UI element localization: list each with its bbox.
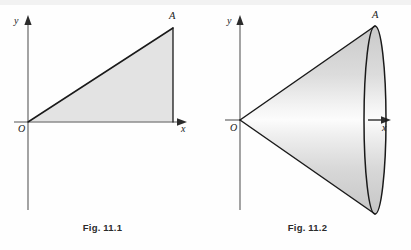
figure-page: y x O A Fig. 11.1 <box>0 0 411 250</box>
figure-11-2: y x O A Fig. 11.2 <box>205 0 410 250</box>
point-a-label: A <box>169 10 175 21</box>
origin-label: O <box>18 123 25 134</box>
point-a-label: A <box>372 9 378 20</box>
y-axis-arrow-icon <box>24 15 31 25</box>
x-axis-label: x <box>382 122 386 133</box>
y-axis-arrow-icon <box>236 15 243 25</box>
figure-11-1-caption: Fig. 11.1 <box>0 222 205 233</box>
x-axis-label: x <box>181 123 185 134</box>
figure-11-1: y x O A Fig. 11.1 <box>0 0 205 250</box>
y-axis-label: y <box>227 15 231 26</box>
figure-11-2-caption: Fig. 11.2 <box>205 222 410 233</box>
fig-11-1-drawing <box>0 0 205 250</box>
y-axis-label: y <box>14 15 18 26</box>
origin-label: O <box>230 122 237 133</box>
